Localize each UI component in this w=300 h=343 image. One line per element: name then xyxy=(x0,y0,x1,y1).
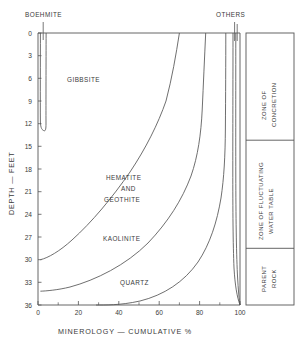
svg-text:15: 15 xyxy=(25,143,33,150)
svg-text:27: 27 xyxy=(25,234,33,241)
y-tick-labels: 0 3 6 9 12 15 18 21 24 27 30 33 36 xyxy=(25,30,33,309)
y-axis-ticks xyxy=(38,33,42,305)
region-label-kaolinite: KAOLINITE xyxy=(103,235,140,242)
curve-kaolinite-boundary xyxy=(96,33,226,305)
svg-text:20: 20 xyxy=(75,309,83,316)
zone-label-parent-rock: PARENT ROCK xyxy=(261,266,277,292)
svg-text:3: 3 xyxy=(28,52,32,59)
svg-text:30: 30 xyxy=(25,256,33,263)
svg-text:100: 100 xyxy=(234,309,245,316)
svg-text:ROCK: ROCK xyxy=(271,269,277,288)
curve-hematite-geothite-boundary xyxy=(40,33,205,291)
curve-gibbsite-boundary xyxy=(40,33,179,260)
zone-label-fluctuating-water-table: ZONE OF FLUCTUATING WATER TABLE xyxy=(258,162,274,240)
svg-text:6: 6 xyxy=(28,75,32,82)
x-axis-title: MINEROLOGY — CUMULATIVE % xyxy=(58,327,192,336)
svg-text:0: 0 xyxy=(36,309,40,316)
svg-text:60: 60 xyxy=(156,309,164,316)
plot-frame xyxy=(38,33,240,305)
region-label-gibbsite: GIBBSITE xyxy=(67,76,100,83)
svg-text:12: 12 xyxy=(25,120,33,127)
region-label-hematite-line3: GEOTHITE xyxy=(104,196,140,203)
zone-label-concretion: ZONE OF CONCRETION xyxy=(261,82,277,127)
y-axis-title: DEPTH — FEET xyxy=(7,151,16,215)
callout-label-others: OTHERS xyxy=(216,11,245,18)
svg-text:9: 9 xyxy=(28,98,32,105)
svg-text:21: 21 xyxy=(25,188,33,195)
svg-text:0: 0 xyxy=(28,30,32,37)
region-label-quartz: QUARTZ xyxy=(120,279,149,287)
svg-text:18: 18 xyxy=(25,166,33,173)
curve-quartz-boundary xyxy=(233,33,240,305)
svg-text:33: 33 xyxy=(25,279,33,286)
curve-others-boundary xyxy=(236,33,240,305)
svg-text:CONCRETION: CONCRETION xyxy=(271,82,277,127)
zone-boxes xyxy=(246,33,294,305)
mineralogy-depth-profile-figure: .ln{fill:none;stroke:#555;stroke-width:.… xyxy=(0,0,300,343)
svg-text:WATER TABLE: WATER TABLE xyxy=(268,188,274,234)
curve-boehmite xyxy=(40,33,46,131)
svg-text:ZONE OF FLUCTUATING: ZONE OF FLUCTUATING xyxy=(258,162,264,240)
svg-text:ZONE OF: ZONE OF xyxy=(261,90,267,120)
region-label-hematite-line1: HEMATITE xyxy=(106,174,141,181)
svg-text:80: 80 xyxy=(196,309,204,316)
svg-text:40: 40 xyxy=(115,309,123,316)
svg-text:36: 36 xyxy=(25,302,33,309)
x-tick-labels: 0 20 40 60 80 100 xyxy=(36,309,246,316)
callout-label-boehmite: BOEHMITE xyxy=(25,11,62,18)
svg-text:PARENT: PARENT xyxy=(261,266,267,292)
svg-text:24: 24 xyxy=(25,211,33,218)
region-label-hematite-line2: AND xyxy=(121,185,136,192)
